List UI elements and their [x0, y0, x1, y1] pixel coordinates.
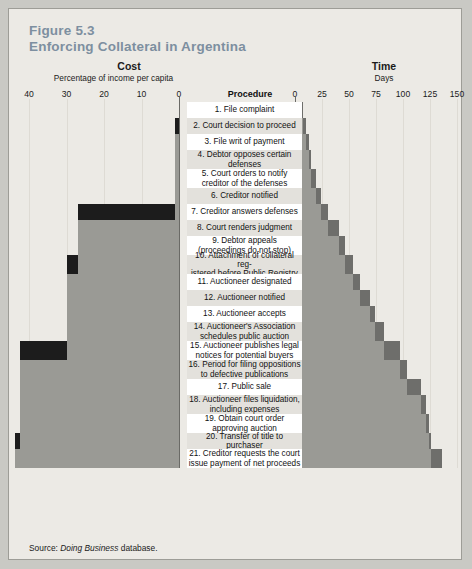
cost-step-bar — [175, 118, 180, 134]
procedure-row: 8. Court renders judgment — [187, 220, 302, 236]
gridline — [430, 99, 431, 468]
cost-step-bar — [67, 255, 78, 274]
time-cumulative-bar — [295, 433, 429, 449]
procedure-row: 4. Debtor opposes certaindefenses — [187, 150, 302, 169]
procedure-label: 12. Auctioneer notified — [204, 293, 285, 302]
procedure-row: 1. File complaint — [187, 102, 302, 118]
procedure-label: 18. Auctioneer files liquidation,includi… — [189, 395, 300, 414]
procedure-row: 21. Creditor requests the courtissue pay… — [187, 449, 302, 468]
source-italic: Doing Business — [60, 543, 118, 553]
cost-cumulative-bar — [20, 360, 179, 379]
procedure-label: 4. Debtor opposes certaindefenses — [198, 150, 292, 169]
procedure-row: 10. Attachment of collateral reg-istered… — [187, 255, 302, 274]
time-step-bar — [303, 118, 306, 134]
procedure-label: 6. Creditor notified — [211, 191, 278, 200]
procedure-label: 11. Auctioneer designated — [197, 277, 291, 286]
time-step-bar — [360, 290, 370, 306]
cost-axis-tick-0: 0 — [167, 89, 191, 99]
procedure-row: 2. Court decision to proceed — [187, 118, 302, 134]
cost-axis-tick-10: 10 — [130, 89, 154, 99]
time-step-bar — [431, 449, 442, 468]
procedure-label: 21. Creditor requests the courtissue pay… — [189, 449, 301, 468]
cost-cumulative-bar — [78, 220, 179, 236]
procedure-label: 2. Court decision to proceed — [193, 121, 295, 130]
cost-cumulative-bar — [67, 255, 179, 274]
procedure-row: 13. Auctioneer accepts — [187, 306, 302, 322]
procedure-label: 16. Period for filing oppositionsto defe… — [189, 360, 301, 379]
procedure-row: 14. Auctioneer's Associationschedules pu… — [187, 322, 302, 341]
time-cumulative-bar — [295, 255, 345, 274]
procedure-row: 12. Auctioneer notified — [187, 290, 302, 306]
cost-cumulative-bar — [175, 134, 180, 150]
time-cumulative-bar — [295, 379, 407, 395]
time-step-bar — [345, 255, 354, 274]
procedure-label: 20. Transfer of title to purchaser — [188, 432, 301, 451]
procedure-row: 16. Period for filing oppositionsto defe… — [187, 360, 302, 379]
procedure-label: 8. Court renders judgment — [197, 223, 292, 232]
time-cumulative-bar — [295, 306, 370, 322]
gridline — [457, 99, 458, 468]
time-axis-tick-100: 100 — [391, 89, 415, 99]
time-step-bar — [311, 169, 315, 188]
axis-line — [179, 97, 180, 468]
time-step-bar — [339, 236, 344, 255]
procedure-label: 5. Court orders to notifycreditor of the… — [202, 169, 288, 188]
cost-cumulative-bar — [20, 395, 179, 414]
time-step-bar — [328, 220, 339, 236]
time-step-bar — [400, 360, 408, 379]
time-step-bar — [375, 322, 384, 341]
cost-step-bar — [15, 433, 21, 449]
procedure-row: 20. Transfer of title to purchaser — [187, 433, 302, 449]
procedure-label: 1. File complaint — [215, 105, 275, 114]
procedure-row: 19. Obtain court orderapproving auction — [187, 414, 302, 433]
time-cumulative-bar — [295, 341, 384, 360]
cost-cumulative-bar — [67, 306, 179, 322]
time-step-bar — [426, 414, 429, 433]
time-step-bar — [429, 433, 431, 449]
cost-cumulative-bar — [20, 379, 179, 395]
procedure-row: 15. Auctioneer publishes legalnotices fo… — [187, 341, 302, 360]
time-axis-tick-150: 150 — [445, 89, 469, 99]
procedure-label: 19. Obtain court orderapproving auction — [205, 414, 285, 433]
procedure-row: 6. Creditor notified — [187, 188, 302, 204]
cost-cumulative-bar — [67, 274, 179, 290]
procedure-list: 1. File complaint2. Court decision to pr… — [187, 102, 302, 468]
source-note: Source: Doing Business database. — [29, 543, 158, 553]
time-cumulative-bar — [295, 290, 360, 306]
time-cumulative-bar — [295, 449, 431, 468]
time-axis-tick-50: 50 — [337, 89, 361, 99]
cost-cumulative-bar — [15, 433, 179, 449]
time-axis-tick-75: 75 — [364, 89, 388, 99]
time-step-bar — [421, 395, 425, 414]
cost-cumulative-bar — [175, 188, 180, 204]
procedure-label: 3. File writ of payment — [204, 137, 284, 146]
source-suffix: database. — [118, 543, 157, 553]
time-cumulative-bar — [295, 274, 353, 290]
procedure-row: 18. Auctioneer files liquidation,includi… — [187, 395, 302, 414]
cost-cumulative-bar — [15, 449, 179, 468]
time-step-bar — [309, 150, 311, 169]
cost-axis-tick-40: 40 — [17, 89, 41, 99]
procedure-row: 7. Creditor answers defenses — [187, 204, 302, 220]
time-step-bar — [370, 306, 375, 322]
cost-cumulative-bar — [67, 322, 179, 341]
cost-cumulative-bar — [175, 169, 180, 188]
procedure-row: 17. Public sale — [187, 379, 302, 395]
time-step-bar — [353, 274, 359, 290]
time-axis-tick-0: 0 — [283, 89, 307, 99]
cost-axis-tick-20: 20 — [92, 89, 116, 99]
time-axis-tick-125: 125 — [418, 89, 442, 99]
cost-cumulative-bar — [78, 236, 179, 255]
cost-step-bar — [78, 204, 175, 220]
time-cumulative-bar — [295, 360, 400, 379]
procedure-label: 17. Public sale — [218, 382, 271, 391]
cost-step-bar — [20, 341, 67, 360]
time-cumulative-bar — [295, 414, 426, 433]
figure-panel: Figure 5.3 Enforcing Collateral in Argen… — [8, 8, 462, 560]
procedure-row: 11. Auctioneer designated — [187, 274, 302, 290]
source-prefix: Source: — [29, 543, 60, 553]
procedure-label: 15. Auctioneer publishes legalnotices fo… — [190, 341, 299, 360]
cost-cumulative-bar — [175, 150, 180, 169]
time-step-bar — [306, 134, 309, 150]
cost-cumulative-bar — [67, 290, 179, 306]
